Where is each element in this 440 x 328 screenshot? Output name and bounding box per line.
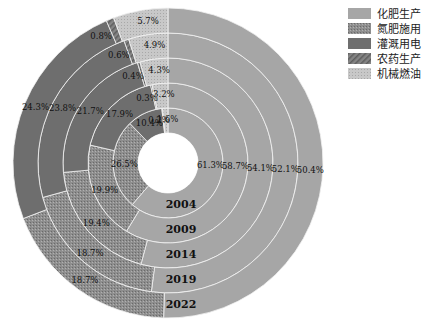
segment-value-label: 24.3% — [22, 102, 49, 112]
legend-item-fertilizer-production: 化肥生产 — [348, 6, 421, 20]
segment-value-label: 52.1% — [272, 164, 299, 174]
segment-value-label: 54.1% — [247, 163, 274, 173]
segment-value-label: 5.7% — [137, 16, 159, 26]
legend-item-machinery-fuel: 机械燃油 — [348, 66, 421, 80]
ring-year-label: 2004 — [166, 198, 197, 211]
legend-item-nitrogen-application: 氮肥施用 — [348, 21, 421, 35]
segment-value-label: 1.6% — [157, 114, 179, 124]
segment-value-label: 61.3% — [197, 160, 224, 170]
segment-value-label: 19.9% — [91, 185, 118, 195]
legend-swatch-icon — [348, 8, 371, 19]
segment-value-label: 50.4% — [297, 165, 324, 175]
legend-label: 氮肥施用 — [377, 20, 421, 36]
legend-label: 化肥生产 — [377, 5, 421, 21]
ring-year-label: 2014 — [166, 248, 197, 261]
segment-value-label: 4.9% — [144, 40, 166, 50]
segment-value-label: 0.4% — [122, 71, 144, 81]
legend-label: 机械燃油 — [377, 65, 421, 81]
segment-value-label: 3.2% — [153, 89, 175, 99]
segment-value-label: 4.3% — [148, 65, 170, 75]
ring-year-label: 2009 — [166, 223, 197, 236]
donut-hole — [138, 133, 198, 193]
segment-value-label: 18.7% — [77, 248, 104, 258]
legend: 化肥生产 氮肥施用 灌溉用电 农药生产 机械燃油 — [348, 6, 421, 81]
segment-value-label: 0.6% — [108, 50, 130, 60]
segment-value-label: 0.8% — [90, 31, 112, 41]
legend-swatch-icon — [348, 53, 371, 64]
legend-swatch-icon — [348, 38, 371, 49]
ring-year-label: 2019 — [166, 273, 197, 286]
legend-swatch-icon — [348, 68, 371, 79]
legend-item-pesticide-production: 农药生产 — [348, 51, 421, 65]
legend-label: 农药生产 — [377, 50, 421, 66]
segment-value-label: 18.7% — [71, 275, 98, 285]
legend-item-irrigation-electricity: 灌溉用电 — [348, 36, 421, 50]
segment-value-label: 21.7% — [77, 106, 104, 116]
legend-swatch-icon — [348, 23, 371, 34]
segment-value-label: 58.7% — [222, 161, 249, 171]
legend-label: 灌溉用电 — [377, 35, 421, 51]
ring-year-label: 2022 — [166, 298, 197, 311]
segment-value-label: 23.8% — [49, 103, 76, 113]
segment-value-label: 19.4% — [83, 218, 110, 228]
segment-value-label: 26.5% — [111, 159, 138, 169]
segment-value-label: 17.9% — [106, 109, 133, 119]
